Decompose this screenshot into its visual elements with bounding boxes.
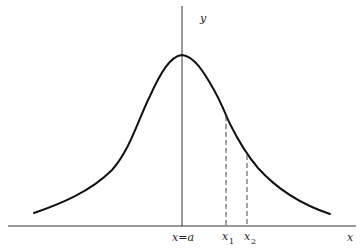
bell-curve-diagram: y x x=a x 1 x 2 [0, 0, 363, 248]
x1-subscript: 1 [229, 237, 234, 246]
x1-label: x [222, 230, 229, 243]
x2-subscript: 2 [251, 237, 256, 246]
center-label: x=a [172, 231, 194, 244]
y-axis-label: y [199, 12, 207, 25]
x-axis-label: x [347, 231, 354, 244]
x2-label: x [244, 230, 251, 243]
